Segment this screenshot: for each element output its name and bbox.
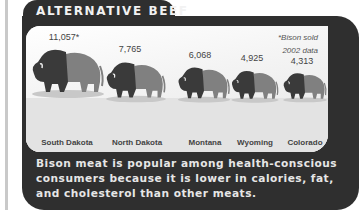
value-label: 7,765 (100, 44, 160, 54)
state-label: South Dakota (32, 138, 102, 147)
caption: Bison meat is popular among health-consc… (36, 156, 356, 201)
footnote: *Bison sold 2002 data (278, 31, 318, 57)
value-label: 11,057* (34, 32, 94, 42)
bison-icon (230, 66, 280, 104)
page-margin-rule (5, 0, 8, 210)
state-label: North Dakota (102, 138, 172, 147)
chart-panel: *Bison sold 2002 data 11,057* South Dako… (26, 26, 328, 152)
bison-icon (282, 68, 328, 104)
bison-icon (176, 62, 232, 104)
value-label: 4,313 (272, 56, 328, 66)
state-label: Colorado (270, 138, 328, 147)
value-label: 6,068 (170, 50, 230, 60)
bison-icon (104, 56, 168, 104)
bison-icon (30, 42, 106, 100)
infographic-title: ALTERNATIVE BEEF (36, 4, 189, 18)
